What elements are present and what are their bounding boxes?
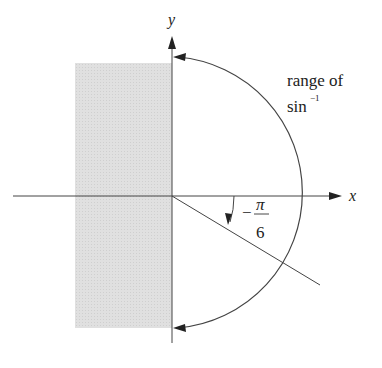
x-axis-arrowhead-icon bbox=[329, 192, 342, 200]
angle-arc bbox=[230, 196, 234, 222]
angle-label-numerator: π bbox=[256, 195, 265, 214]
angle-label-denominator: 6 bbox=[256, 223, 265, 242]
range-label-superscript: −1 bbox=[310, 93, 320, 103]
range-label-line2: sin bbox=[287, 97, 307, 116]
y-axis-label: y bbox=[166, 11, 176, 29]
inverse-sine-diagram: y x range of sin −1 − π 6 bbox=[0, 0, 382, 368]
angle-label-sign: − bbox=[242, 203, 252, 222]
range-arc-top-arrowhead-icon bbox=[173, 53, 186, 61]
diagram-canvas: y x range of sin −1 − π 6 bbox=[0, 0, 382, 368]
range-arc bbox=[178, 57, 302, 328]
range-label-line1: range of bbox=[287, 71, 344, 90]
y-axis-arrowhead-icon bbox=[168, 36, 176, 49]
x-axis-label: x bbox=[348, 187, 356, 204]
range-arc-bottom-arrowhead-icon bbox=[173, 324, 186, 332]
